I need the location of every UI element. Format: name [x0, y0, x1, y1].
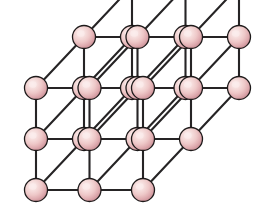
lattice-atom	[180, 128, 203, 151]
lattice-atom	[25, 128, 48, 151]
atom-highlight	[29, 183, 37, 189]
atom-sphere	[126, 26, 149, 49]
atom-sphere	[25, 128, 48, 151]
lattice-atom	[132, 77, 155, 100]
atom-highlight	[29, 81, 37, 87]
atom-highlight	[136, 132, 144, 138]
lattice-atom	[132, 128, 155, 151]
atom-sphere	[132, 179, 155, 202]
lattice-atom	[73, 26, 96, 49]
lattice-atom	[78, 77, 101, 100]
lattice-atom	[78, 128, 101, 151]
atom-highlight	[184, 132, 192, 138]
atom-sphere	[25, 77, 48, 100]
atom-highlight	[232, 81, 240, 87]
atom-highlight	[77, 30, 85, 36]
lattice-diagram	[0, 0, 266, 214]
lattice-atom	[78, 179, 101, 202]
atom-highlight	[29, 132, 37, 138]
lattice-atom	[180, 26, 203, 49]
atom-sphere	[78, 179, 101, 202]
lattice-atom	[25, 77, 48, 100]
atom-highlight	[136, 81, 144, 87]
lattice-atom	[228, 77, 251, 100]
atom-highlight	[82, 132, 90, 138]
atom-sphere	[180, 26, 203, 49]
lattice-atom	[228, 26, 251, 49]
atom-sphere	[132, 128, 155, 151]
atom-sphere	[228, 26, 251, 49]
atom-highlight	[82, 183, 90, 189]
atom-highlight	[82, 81, 90, 87]
crystal-lattice-figure	[0, 0, 266, 214]
atom-sphere	[78, 128, 101, 151]
atom-sphere	[132, 77, 155, 100]
atom-sphere	[25, 179, 48, 202]
atom-highlight	[184, 30, 192, 36]
lattice-atom	[126, 26, 149, 49]
lattice-atom	[25, 179, 48, 202]
atom-sphere	[228, 77, 251, 100]
atom-sphere	[180, 128, 203, 151]
atom-sphere	[78, 77, 101, 100]
atom-sphere	[180, 77, 203, 100]
atom-highlight	[184, 81, 192, 87]
atom-highlight	[130, 30, 138, 36]
lattice-atom	[180, 77, 203, 100]
atom-highlight	[232, 30, 240, 36]
atom-sphere	[73, 26, 96, 49]
lattice-atom	[132, 179, 155, 202]
atom-highlight	[136, 183, 144, 189]
